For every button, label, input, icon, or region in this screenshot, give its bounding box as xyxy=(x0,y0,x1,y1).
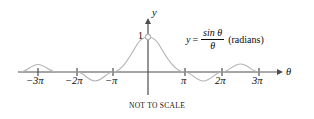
equation-annotation: y = sin θ θ (radians) xyxy=(186,28,264,51)
x-tick-label-pi: π xyxy=(181,76,186,87)
x-tick-label-minus-2pi: −2π xyxy=(65,76,83,87)
equation-denominator: θ xyxy=(208,40,217,51)
y-axis-label-y: y xyxy=(152,8,157,19)
open-point-at-origin xyxy=(145,34,150,39)
equation-numerator: sin θ xyxy=(201,28,224,39)
x-tick-label-minus-3pi: −3π xyxy=(26,76,44,87)
figure-caption: NOT TO SCALE xyxy=(0,101,314,110)
x-tick-label-2pi: 2π xyxy=(215,76,226,87)
sinc-function-figure: −3π −2π −π π 2π 3π θ y 1 y = sin θ θ (ra… xyxy=(0,0,314,119)
equation-equals-sign: = xyxy=(192,34,198,45)
x-tick-label-3pi: 3π xyxy=(252,76,263,87)
equation-units: (radians) xyxy=(228,34,264,45)
equation-lhs: y xyxy=(186,34,190,45)
equation-fraction: sin θ θ xyxy=(201,28,224,51)
y-tick-label-one: 1 xyxy=(138,31,143,41)
x-axis-label-theta: θ xyxy=(286,67,291,78)
x-tick-label-minus-pi: −π xyxy=(105,76,117,87)
